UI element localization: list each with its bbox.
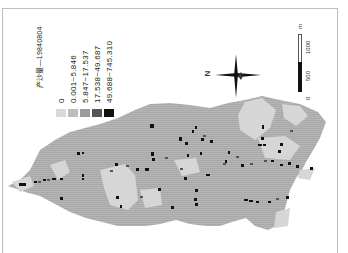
north-label: N [203, 71, 212, 77]
legend-item-0: 0 [56, 98, 66, 117]
scale-tick-1000: 1000 [305, 41, 311, 54]
scale-bar-white-segment [298, 34, 302, 64]
legend-swatch [80, 109, 90, 117]
legend-item-4: 49.688~745.310 [104, 41, 114, 117]
legend-item-1: 0.001~5.846 [68, 55, 78, 117]
scale-bar-black-segment [298, 62, 302, 92]
legend-title: 产沙量—19840804 [34, 26, 44, 88]
north-arrow: N [213, 52, 263, 102]
legend-label: 49.688~745.310 [105, 41, 114, 103]
legend-item-3: 17.538~49.687 [92, 45, 102, 117]
legend-label: 17.538~49.687 [93, 45, 102, 103]
legend-swatch [92, 109, 102, 117]
legend-swatch [104, 109, 114, 117]
legend-label: 0.001~5.846 [69, 55, 78, 103]
scale-tick-0: 0 [305, 97, 311, 100]
legend-label: 5.847~17.537 [81, 50, 90, 103]
north-arrow-icon [213, 52, 263, 102]
legend-label: 0 [57, 98, 66, 103]
scale-bar: m 1000 500 0 [298, 30, 318, 76]
scale-unit: m [297, 24, 303, 29]
legend-swatch [68, 109, 78, 117]
legend-item-2: 5.847~17.537 [80, 50, 90, 117]
scale-tick-500: 500 [305, 71, 311, 81]
legend-swatch [56, 109, 66, 117]
